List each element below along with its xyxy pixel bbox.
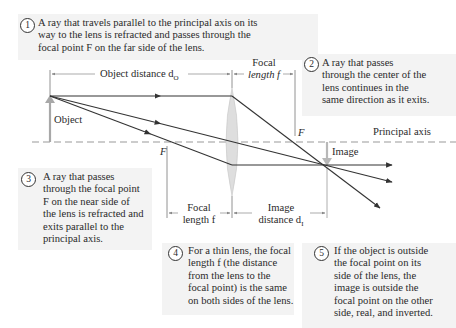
ray-2 [50, 96, 392, 182]
focal-length-bottom-label: Focal length f [178, 202, 220, 226]
principal-axis-label: Principal axis [373, 126, 431, 138]
ray-1 [50, 96, 380, 208]
focal-point-far-label: F [298, 127, 304, 139]
image-label: Image [332, 146, 358, 158]
image-distance-label: Image distance dI [252, 202, 310, 230]
focal-length-top-label: Focal length f [246, 57, 282, 81]
focal-point-near-label: F [160, 146, 166, 158]
lens-diagram [0, 0, 456, 328]
object-distance-label: Object distance dO [100, 68, 179, 84]
object-label: Object [54, 114, 82, 126]
